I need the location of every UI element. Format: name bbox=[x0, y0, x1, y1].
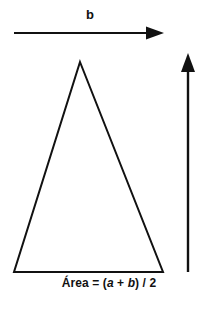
caption-suffix: ) / 2 bbox=[135, 276, 156, 290]
horizontal-arrow-head bbox=[146, 27, 164, 40]
geometry-figure: b Área = (a + b) / 2 bbox=[0, 0, 218, 309]
triangle-shape bbox=[14, 62, 163, 272]
caption-var-b: b bbox=[128, 276, 135, 290]
figure-canvas bbox=[0, 0, 218, 309]
caption-operator: + bbox=[114, 276, 128, 290]
caption-prefix: Área = ( bbox=[62, 276, 107, 290]
caption-var-a: a bbox=[107, 276, 114, 290]
area-formula-caption: Área = (a + b) / 2 bbox=[0, 277, 218, 289]
vertical-arrow bbox=[181, 53, 195, 272]
horizontal-arrow-b bbox=[14, 27, 164, 40]
vertical-arrow-head bbox=[181, 53, 195, 72]
label-b: b bbox=[0, 8, 180, 21]
